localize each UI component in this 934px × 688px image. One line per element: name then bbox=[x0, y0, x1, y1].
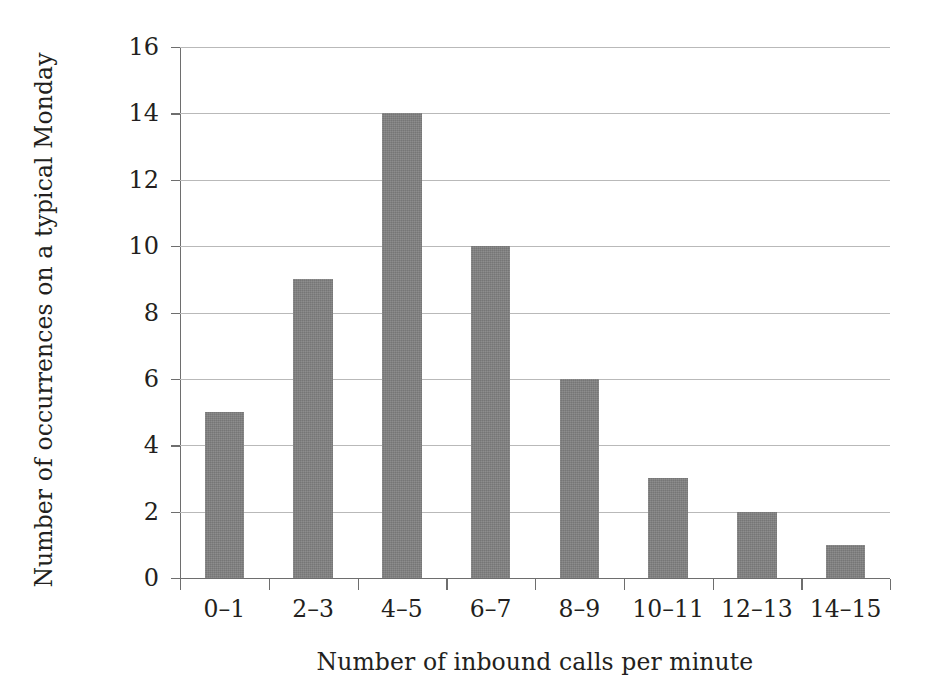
bar bbox=[471, 246, 510, 578]
y-tick-label-4: 4 bbox=[99, 433, 159, 457]
gridline-4 bbox=[180, 445, 890, 446]
y-tick-mark-4 bbox=[171, 445, 180, 446]
x-tick-label: 4–5 bbox=[358, 598, 447, 622]
x-tick-mark-5 bbox=[624, 579, 625, 590]
y-tick-label-14: 14 bbox=[99, 101, 159, 125]
y-tick-label-16: 16 bbox=[99, 35, 159, 59]
y-tick-label-10: 10 bbox=[99, 234, 159, 258]
gridline-10 bbox=[180, 246, 890, 247]
gridline-14 bbox=[180, 113, 890, 114]
x-tick-mark-3 bbox=[446, 579, 447, 590]
histogram-chart: Number of occurrences on a typical Monda… bbox=[0, 0, 934, 688]
gridline-2 bbox=[180, 512, 890, 513]
y-tick-mark-14 bbox=[171, 113, 180, 114]
x-tick-mark-2 bbox=[358, 579, 359, 590]
x-tick-mark-1 bbox=[269, 579, 270, 590]
y-tick-mark-2 bbox=[171, 512, 180, 513]
x-tick-mark-4 bbox=[535, 579, 536, 590]
y-tick-mark-6 bbox=[171, 379, 180, 380]
bar bbox=[648, 478, 687, 578]
y-tick-mark-10 bbox=[171, 246, 180, 247]
x-tick-label: 2–3 bbox=[269, 598, 358, 622]
x-tick-mark-7 bbox=[801, 579, 802, 590]
y-tick-label-0: 0 bbox=[99, 566, 159, 590]
y-tick-label-8: 8 bbox=[99, 301, 159, 325]
gridline-8 bbox=[180, 313, 890, 314]
bar bbox=[382, 113, 421, 578]
x-tick-label: 10–11 bbox=[624, 598, 713, 622]
bar bbox=[826, 545, 865, 578]
bar bbox=[560, 379, 599, 578]
x-tick-mark-6 bbox=[713, 579, 714, 590]
y-tick-mark-8 bbox=[171, 313, 180, 314]
x-tick-label: 14–15 bbox=[801, 598, 890, 622]
y-tick-mark-12 bbox=[171, 180, 180, 181]
bar bbox=[205, 412, 244, 578]
x-tick-label: 6–7 bbox=[446, 598, 535, 622]
gridline-16 bbox=[180, 47, 890, 48]
y-axis-title: Number of occurrences on a typical Monda… bbox=[24, 40, 64, 600]
bar bbox=[737, 512, 776, 578]
y-tick-label-6: 6 bbox=[99, 367, 159, 391]
x-tick-label: 8–9 bbox=[535, 598, 624, 622]
x-tick-mark-0 bbox=[180, 579, 181, 590]
y-tick-label-12: 12 bbox=[99, 168, 159, 192]
gridline-6 bbox=[180, 379, 890, 380]
x-tick-label: 0–1 bbox=[180, 598, 269, 622]
x-tick-mark-8 bbox=[890, 579, 891, 590]
plot-area bbox=[180, 47, 890, 578]
y-tick-mark-16 bbox=[171, 47, 180, 48]
x-tick-label: 12–13 bbox=[713, 598, 802, 622]
x-axis-title: Number of inbound calls per minute bbox=[180, 648, 890, 676]
gridline-12 bbox=[180, 180, 890, 181]
y-tick-mark-0 bbox=[171, 578, 180, 579]
y-tick-label-2: 2 bbox=[99, 500, 159, 524]
bar bbox=[293, 279, 332, 578]
